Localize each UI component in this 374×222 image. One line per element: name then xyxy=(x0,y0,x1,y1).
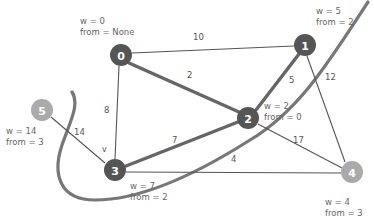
node-2-weight-text: w = 2 xyxy=(264,101,302,112)
node-3-weight-text: w = 7 xyxy=(130,181,168,192)
node-3-from-text: from = 2 xyxy=(130,192,168,203)
edge-0-1 xyxy=(132,46,294,53)
edge-weight-3-4: 4 xyxy=(231,155,236,164)
nodes-group: 0 1 2 3 4 5 xyxy=(31,34,363,183)
node-0-weight-text: w = 0 xyxy=(80,16,134,27)
node-1-annotation: w = 5 from = 2 xyxy=(316,6,354,29)
edge-2-4 xyxy=(258,124,342,168)
node-0-from-text: from = None xyxy=(80,27,134,38)
edge-weight-2-3: 7 xyxy=(172,136,177,145)
node-5-from-text: from = 3 xyxy=(6,137,44,148)
node-1-label: 1 xyxy=(301,40,309,53)
node-4-weight-text: w = 4 xyxy=(325,197,363,208)
edge-weight-0-3: 8 xyxy=(104,106,109,115)
edge-2-3 xyxy=(126,122,238,166)
edge-weight-1-2: 5 xyxy=(289,76,294,85)
node-4-from-text: from = 3 xyxy=(325,208,363,219)
node-4-annotation: w = 4 from = 3 xyxy=(325,197,363,220)
node-0-annotation: w = 0 from = None xyxy=(80,16,134,39)
node-0-label: 0 xyxy=(117,50,125,63)
node-3-label: 3 xyxy=(111,165,119,178)
node-2-label: 2 xyxy=(244,113,252,126)
node-2-from-text: from = 0 xyxy=(264,112,302,123)
edge-weight-1-4: 12 xyxy=(325,73,336,82)
edge-weight-2-4: 17 xyxy=(293,136,304,145)
graph-svg-layer: 0 1 2 3 4 5 xyxy=(0,0,374,222)
edge-weight-0-1: 10 xyxy=(193,33,204,42)
node-5-label: 5 xyxy=(38,105,46,118)
node-2-annotation: w = 2 from = 0 xyxy=(264,101,302,124)
node-4-label: 4 xyxy=(348,167,356,180)
pointer-marker-v: v xyxy=(102,146,107,154)
node-3-annotation: w = 7 from = 2 xyxy=(130,181,168,204)
node-1-from-text: from = 2 xyxy=(316,17,354,28)
edge-0-3 xyxy=(115,66,119,159)
node-5-weight-text: w = 14 xyxy=(6,126,44,137)
node-1-weight-text: w = 5 xyxy=(316,6,354,17)
edge-weight-0-2: 2 xyxy=(187,71,192,80)
graph-canvas: 0 1 2 3 4 5 10 2 8 5 12 7 17 4 14 w = 0 … xyxy=(0,0,374,222)
edge-weight-5-3: 14 xyxy=(74,128,85,137)
edge-0-2 xyxy=(129,63,239,112)
node-5-annotation: w = 14 from = 3 xyxy=(6,126,44,149)
edge-3-4 xyxy=(126,172,341,173)
